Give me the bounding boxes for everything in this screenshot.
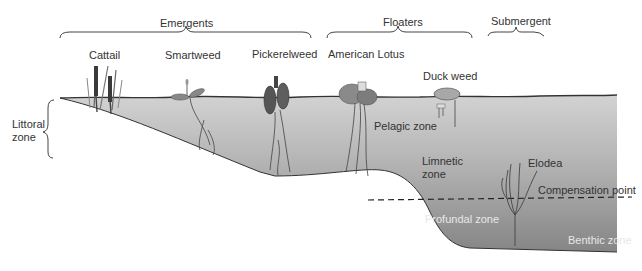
submergent-brace xyxy=(488,27,544,36)
littoral-line2: zone xyxy=(12,131,45,144)
littoral-line1: Littoral xyxy=(12,118,45,131)
smartweed-label: Smartweed xyxy=(165,49,221,61)
submergent-label: Submergent xyxy=(491,15,551,27)
american-lotus-label: American Lotus xyxy=(328,48,404,60)
floaters-label: Floaters xyxy=(383,16,423,28)
limnetic-zone-label: Limnetic zone xyxy=(422,155,463,181)
limnetic-line1: Limnetic xyxy=(422,155,463,168)
duck-weed-label: Duck weed xyxy=(423,70,477,82)
limnetic-line2: zone xyxy=(422,168,463,181)
lake-zone-diagram xyxy=(0,0,642,271)
pickerelweed-label: Pickerelweed xyxy=(252,48,317,60)
emergents-label: Emergents xyxy=(160,17,213,29)
cattail-label: Cattail xyxy=(89,49,120,61)
lake-water-body xyxy=(60,96,617,252)
benthic-zone-label: Benthic zone xyxy=(568,234,632,246)
compensation-point-label: Compensation point xyxy=(538,184,636,196)
elodea-label: Elodea xyxy=(528,157,562,169)
profundal-zone-label: Profundal zone xyxy=(425,213,499,225)
littoral-zone-label: Littoral zone xyxy=(12,118,45,144)
pelagic-zone-label: Pelagic zone xyxy=(374,120,437,132)
